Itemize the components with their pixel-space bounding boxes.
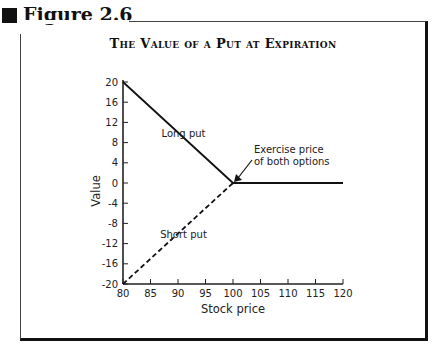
put-value-chart: 201612840-4-8-12-16-20808590951001051101… xyxy=(0,0,446,358)
y-tick-label: 20 xyxy=(105,77,118,88)
annotation-arrow xyxy=(238,160,252,178)
y-axis-label: Value xyxy=(89,175,103,207)
x-tick-label: 120 xyxy=(333,288,352,299)
x-tick-label: 105 xyxy=(251,288,270,299)
x-tick-label: 115 xyxy=(306,288,325,299)
exercise-price-label: Exercise price xyxy=(254,144,324,155)
x-tick-label: 110 xyxy=(278,288,297,299)
y-tick-label: 8 xyxy=(112,137,118,148)
exercise-price-label-line2: of both options xyxy=(254,156,330,167)
long-put-label: Long put xyxy=(162,128,206,139)
y-tick-label: 12 xyxy=(105,117,118,128)
y-tick-label: -16 xyxy=(102,258,118,269)
y-tick-label: -8 xyxy=(108,218,118,229)
x-tick-label: 80 xyxy=(117,288,130,299)
y-tick-label: 16 xyxy=(105,97,118,108)
y-tick-label: 0 xyxy=(112,178,118,189)
long-put-line xyxy=(123,82,343,183)
x-tick-label: 100 xyxy=(223,288,242,299)
short-put-label: Short put xyxy=(160,229,207,240)
x-axis-label: Stock price xyxy=(201,302,265,316)
x-tick-label: 95 xyxy=(199,288,212,299)
y-tick-label: -4 xyxy=(108,198,118,209)
y-tick-label: 4 xyxy=(112,157,118,168)
y-tick-label: -12 xyxy=(102,238,118,249)
x-tick-label: 90 xyxy=(172,288,185,299)
y-tick-label: -20 xyxy=(102,279,118,290)
x-tick-label: 85 xyxy=(144,288,157,299)
